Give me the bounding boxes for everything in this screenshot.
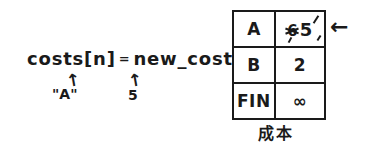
sketch-canvas: costs[n]=new_cost ↑ "A" ↑ 5 A 6 5	[0, 0, 380, 154]
code-expression: costs[n]=new_cost	[27, 50, 233, 68]
table-cell-key: B	[233, 47, 275, 83]
new-value: 5	[300, 19, 313, 40]
table-cell-key: A	[233, 11, 275, 47]
scribble-tick-icon	[317, 35, 322, 41]
table-row: FIN ∞	[233, 83, 325, 119]
table-cell-value-updated: 6 5	[275, 11, 325, 47]
expression-lhs: costs[n]	[27, 48, 116, 69]
cost-table: A 6 5 B 2 FIN	[232, 10, 326, 112]
expression-operator: =	[116, 51, 134, 66]
table-cell-value: ∞	[275, 83, 325, 119]
table-caption: 成本	[258, 120, 294, 144]
table-cell-key: FIN	[233, 83, 275, 119]
annotation-label-index: "A"	[52, 86, 77, 102]
table-cell-value: 2	[275, 47, 325, 83]
expression-rhs: new_cost	[133, 48, 232, 69]
pointer-left-arrow-icon: ←	[330, 14, 348, 39]
struck-out-old-value: 6	[287, 22, 297, 40]
table-row: B 2	[233, 47, 325, 83]
annotation-label-value: 5	[128, 87, 138, 103]
scribble-tick-icon	[313, 15, 319, 24]
table-row: A 6 5	[233, 11, 325, 47]
